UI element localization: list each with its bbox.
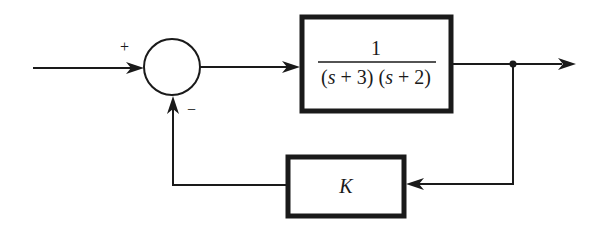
- minus-sign-label: −: [187, 101, 196, 118]
- summing-junction: [144, 39, 200, 95]
- forward-transfer-block: [302, 17, 451, 111]
- plus-sign-label: +: [120, 38, 129, 55]
- transfer-denominator: (s + 3) (s + 2): [321, 66, 431, 89]
- block-diagram: + 1 (s + 3) (s + 2) K −: [0, 0, 600, 232]
- transfer-numerator: 1: [371, 37, 381, 59]
- feedback-gain-label: K: [338, 175, 354, 197]
